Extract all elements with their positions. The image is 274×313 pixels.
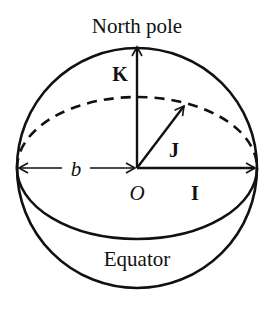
sphere-diagram: North pole K J I O b Equator bbox=[0, 0, 274, 313]
north-pole-label: North pole bbox=[92, 14, 182, 38]
origin-label: O bbox=[129, 181, 144, 205]
equator-label: Equator bbox=[104, 247, 170, 271]
radius-label: b bbox=[71, 157, 82, 181]
j-vector-label: J bbox=[169, 139, 179, 161]
k-vector-label: K bbox=[112, 63, 128, 85]
i-vector-label: I bbox=[191, 182, 199, 204]
